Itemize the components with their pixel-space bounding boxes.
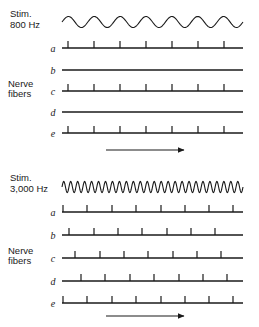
fiber-label-c: c: [51, 86, 56, 97]
fiber-trace-a: a: [51, 41, 244, 54]
stim-3000-label-group: Stim. 3,000 Hz: [10, 172, 48, 194]
fiber-label-d: d: [51, 107, 57, 118]
fiber-trace-e: e: [51, 126, 243, 139]
fiber-label-e: e: [51, 298, 56, 309]
fiber-label-a: a: [51, 43, 56, 54]
stim-3000-label-line1: Stim.: [10, 172, 32, 183]
fiber-label-e: e: [51, 128, 56, 139]
stim-800-label-group: Stim. 800 Hz: [10, 8, 40, 30]
fiber-trace-c: c: [51, 251, 243, 264]
fiber-traces-800hz: abcde: [51, 41, 244, 139]
nerve-fibers-label-800-line2: fibers: [8, 88, 31, 99]
stimulus-waveform-800hz: [62, 17, 243, 28]
panel-800hz: Stim. 800 Hz Nerve fibers abcde: [8, 8, 243, 150]
fiber-label-b: b: [51, 230, 56, 241]
fiber-trace-b: b: [51, 228, 244, 241]
fiber-traces-3000hz: abcde: [51, 205, 244, 309]
nerve-fiber-phase-locking-figure: Stim. 800 Hz Nerve fibers abcde Stim. 3,…: [0, 0, 259, 327]
fiber-label-d: d: [51, 276, 57, 287]
fiber-trace-b: b: [51, 65, 244, 76]
fiber-trace-d: d: [51, 107, 244, 118]
fiber-trace-c: c: [51, 84, 243, 97]
stim-800-label-line1: Stim.: [10, 8, 32, 19]
nerve-fibers-label-group-3000: Nerve fibers: [8, 245, 33, 266]
stim-800-label-line2: 800 Hz: [10, 19, 40, 30]
panel-3000hz: Stim. 3,000 Hz Nerve fibers abcde: [8, 172, 243, 316]
stim-3000-label-line2: 3,000 Hz: [10, 183, 48, 194]
fiber-label-c: c: [51, 253, 56, 264]
nerve-fibers-label-3000-line2: fibers: [8, 255, 31, 266]
nerve-fibers-label-group-800: Nerve fibers: [8, 78, 33, 99]
stimulus-waveform-3000hz: [62, 182, 243, 193]
fiber-label-b: b: [51, 65, 56, 76]
fiber-trace-d: d: [51, 274, 244, 287]
fiber-trace-a: a: [51, 205, 244, 218]
fiber-trace-e: e: [51, 296, 243, 309]
fiber-label-a: a: [51, 207, 56, 218]
